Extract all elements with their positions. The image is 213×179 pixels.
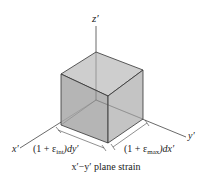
dimension-tick [56, 127, 61, 133]
dimension-label-right: (1 + εmax)dx′ [124, 143, 175, 156]
dimension-tick [102, 145, 106, 151]
z-axis-label: z′ [91, 12, 99, 24]
dimension-label-left: (1 + εint)dy′ [33, 143, 79, 156]
dimension-tick [111, 144, 115, 150]
plane-strain-diagram: z′ x′ y′ (1 + εint)dy′ (1 + εmax)dx′ x′−… [0, 0, 213, 179]
figure-caption: x′−y′ plane strain [72, 161, 141, 172]
y-axis-label: y′ [187, 130, 195, 141]
x-axis-label: x′ [11, 143, 19, 154]
